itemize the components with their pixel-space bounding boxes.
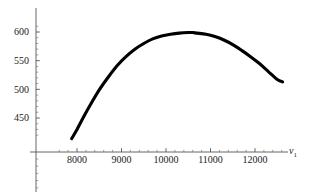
x-axis-title: v1: [289, 145, 297, 159]
x-axis-tick-label: 9000: [112, 154, 132, 165]
x-axis-tick-label: 12000: [243, 154, 268, 165]
y-axis-tick-label: 500: [14, 84, 29, 95]
y-axis-tick-label: 550: [14, 55, 29, 66]
chart-plot: 80009000100001100012000450500550600: [0, 0, 316, 196]
x-axis-tick-label: 8000: [67, 154, 87, 165]
y-axis-tick-label: 600: [14, 26, 29, 37]
x-axis-tick-label: 10000: [154, 154, 179, 165]
x-axis-title-subscript: 1: [293, 151, 297, 159]
chart-container: 80009000100001100012000450500550600 v1: [0, 0, 316, 196]
data-curve: [72, 33, 283, 139]
x-axis-tick-label: 11000: [198, 154, 223, 165]
y-axis-tick-label: 450: [14, 112, 29, 123]
